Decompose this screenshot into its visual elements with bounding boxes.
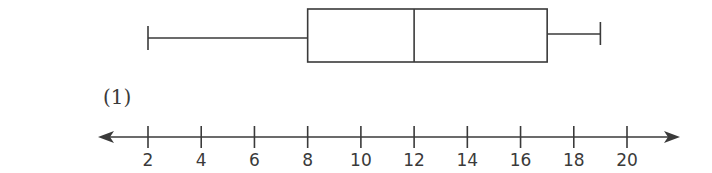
problem-label: (1) [103,85,131,109]
tick-label: 20 [616,150,638,170]
iqr-box [308,9,547,62]
box-plot-chart: (1) 2468101214161820 [0,0,712,173]
tick-labels: 2468101214161820 [143,150,638,170]
tick-label: 6 [249,150,260,170]
tick-label: 14 [457,150,479,170]
tick-label: 2 [143,150,154,170]
number-line [98,126,680,148]
box-and-whisker [148,9,600,62]
tick-label: 8 [302,150,313,170]
tick-label: 4 [196,150,207,170]
tick-label: 18 [563,150,585,170]
tick-label: 16 [510,150,532,170]
tick-label: 10 [350,150,372,170]
tick-label: 12 [403,150,425,170]
